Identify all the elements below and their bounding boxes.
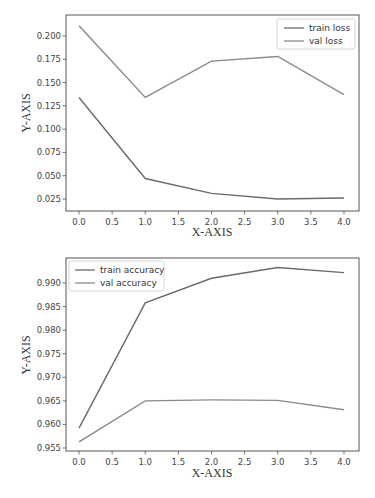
x-tick-label: 0.0: [72, 217, 86, 227]
y-tick-label: 0.980: [37, 325, 61, 335]
legend: train accuracy val accuracy: [69, 261, 165, 291]
y-tick-label: 0.955: [37, 443, 61, 453]
x-axis-label: X-AXIS: [192, 225, 233, 239]
figure: 0.00.51.01.52.02.53.03.54.0 0.0250.0500.…: [0, 0, 375, 498]
y-tick-label: 0.965: [37, 396, 61, 406]
x-axis-ticks: 0.00.51.01.52.02.53.03.54.0: [72, 451, 351, 467]
x-tick-label: 1.0: [138, 457, 152, 467]
y-tick-label: 0.975: [37, 349, 61, 359]
x-tick-label: 4.0: [337, 457, 351, 467]
y-tick-label: 0.970: [37, 372, 61, 382]
legend-val-loss: val loss: [309, 36, 343, 46]
legend-train-loss: train loss: [309, 23, 351, 33]
y-tick-label: 0.990: [37, 278, 61, 288]
x-tick-label: 0.5: [105, 457, 119, 467]
y-tick-label: 0.175: [37, 54, 61, 64]
y-axis-label: Y-AXIS: [19, 93, 33, 132]
x-tick-label: 3.0: [271, 217, 285, 227]
x-tick-label: 1.5: [172, 217, 186, 227]
y-axis-ticks: 0.0250.0500.0750.1000.1250.1500.1750.200: [37, 31, 66, 204]
x-tick-label: 3.5: [304, 457, 318, 467]
x-tick-label: 1.5: [172, 457, 186, 467]
x-tick-label: 2.5: [238, 217, 252, 227]
legend-train-accuracy: train accuracy: [100, 265, 165, 275]
x-tick-label: 4.0: [337, 217, 351, 227]
x-tick-label: 3.5: [304, 217, 318, 227]
x-tick-label: 0.5: [105, 217, 119, 227]
y-tick-label: 0.025: [37, 194, 61, 204]
y-tick-label: 0.075: [37, 147, 61, 157]
x-tick-label: 2.5: [238, 457, 252, 467]
series-line-val-accuracy: [79, 400, 344, 442]
x-tick-label: 1.0: [138, 217, 152, 227]
loss-chart: 0.00.51.01.52.02.53.03.54.0 0.0250.0500.…: [19, 15, 359, 239]
y-tick-label: 0.960: [37, 419, 61, 429]
y-axis-ticks: 0.9550.9600.9650.9700.9750.9800.9850.990: [37, 278, 66, 453]
accuracy-chart: 0.00.51.01.52.02.53.03.54.0 0.9550.9600.…: [19, 258, 359, 480]
legend: train loss val loss: [277, 19, 355, 49]
y-tick-label: 0.200: [37, 31, 61, 41]
x-tick-label: 0.0: [72, 457, 86, 467]
legend-val-accuracy: val accuracy: [100, 278, 157, 288]
y-tick-label: 0.100: [37, 124, 61, 134]
series-lines: [79, 26, 344, 199]
y-tick-label: 0.150: [37, 78, 61, 88]
y-axis-label: Y-AXIS: [19, 335, 33, 374]
x-axis-label: X-AXIS: [192, 466, 233, 480]
y-tick-label: 0.985: [37, 302, 61, 312]
x-tick-label: 3.0: [271, 457, 285, 467]
y-tick-label: 0.050: [37, 171, 61, 181]
y-tick-label: 0.125: [37, 101, 61, 111]
series-lines: [79, 267, 344, 441]
series-line-train-loss: [79, 97, 344, 199]
